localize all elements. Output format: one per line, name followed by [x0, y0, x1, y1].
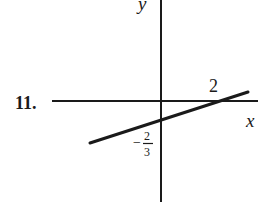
y-intercept-sign: − — [133, 135, 141, 150]
y-intercept-denominator: 3 — [144, 145, 150, 159]
problem-number: 11. — [15, 93, 37, 113]
x-axis-label: x — [245, 110, 255, 131]
y-intercept-numerator: 2 — [144, 129, 150, 143]
graph-line — [90, 92, 248, 143]
y-axis-label: y — [136, 0, 147, 14]
x-intercept-label: 2 — [209, 76, 218, 96]
graph-figure: y x 11. 2 − 2 3 — [0, 0, 272, 202]
